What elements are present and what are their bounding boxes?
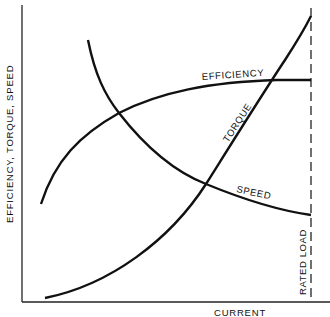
torque-curve	[45, 16, 311, 298]
motor-characteristics-chart: EFFICIENCY TORQUE SPEED RATED LOAD EFFIC…	[0, 0, 330, 317]
x-axis-label: CURRENT	[214, 307, 266, 317]
efficiency-curve	[41, 80, 311, 204]
torque-label: TORQUE	[220, 101, 253, 144]
speed-curve	[88, 40, 311, 215]
y-axis-label: EFFICIENCY, TORQUE, SPEED	[4, 65, 15, 223]
efficiency-label: EFFICIENCY	[201, 67, 264, 82]
rated-load-label: RATED LOAD	[297, 229, 308, 295]
